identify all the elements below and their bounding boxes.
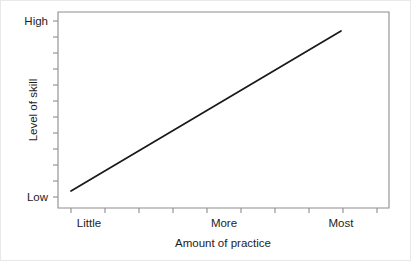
y-tick-label-low: Low xyxy=(27,191,49,203)
x-tick-label-more: More xyxy=(211,217,237,229)
y-axis-ticks xyxy=(53,21,58,197)
x-axis-ticks xyxy=(71,208,377,213)
x-tick-label-most: Most xyxy=(329,217,355,229)
chart-figure: High Low Little More Most Level of skill… xyxy=(0,0,411,261)
x-axis-title: Amount of practice xyxy=(175,237,271,249)
line-chart: High Low Little More Most Level of skill… xyxy=(1,1,411,261)
y-axis-title: Level of skill xyxy=(27,79,39,142)
x-tick-label-little: Little xyxy=(77,217,101,229)
y-tick-label-high: High xyxy=(24,15,48,27)
plot-background xyxy=(58,12,389,208)
